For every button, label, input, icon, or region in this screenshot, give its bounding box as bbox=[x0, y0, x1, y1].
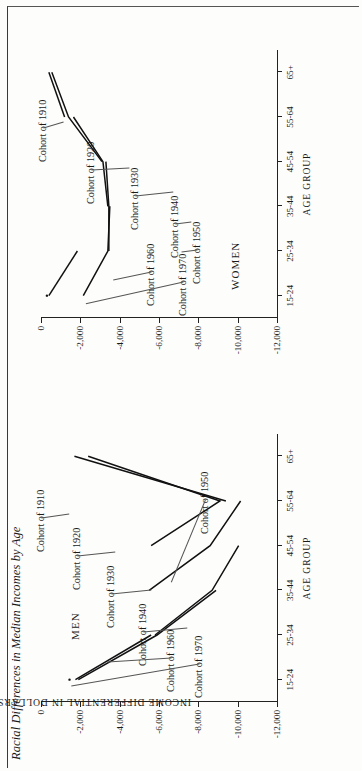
y-tick-label: -6,000 bbox=[154, 326, 164, 350]
y-tick bbox=[80, 318, 81, 323]
cohort-label: Cohort of 1940 bbox=[137, 603, 148, 665]
x-tick bbox=[277, 589, 282, 590]
y-tick-label: -10,000 bbox=[233, 710, 243, 738]
cohort-label: Cohort of 1910 bbox=[35, 489, 46, 551]
x-axis-women bbox=[277, 50, 278, 318]
y-tick bbox=[238, 702, 239, 707]
y-tick-label: -2,000 bbox=[75, 710, 85, 734]
y-tick-label: 0 bbox=[36, 710, 46, 715]
x-tick-label: 45-54 bbox=[285, 150, 295, 171]
y-tick-label: 0 bbox=[36, 326, 46, 331]
x-axis-men bbox=[277, 434, 278, 702]
y-tick bbox=[198, 318, 199, 323]
y-tick-label: -10,000 bbox=[233, 326, 243, 354]
x-tick bbox=[277, 678, 282, 679]
x-tick-label: 55-64 bbox=[285, 490, 295, 511]
cohort-label: Cohort of 1970 bbox=[177, 253, 188, 315]
cohort-label: Cohort of 1920 bbox=[71, 527, 82, 589]
y-tick bbox=[159, 318, 160, 323]
x-tick-label: 25-34 bbox=[285, 624, 295, 645]
x-axis-title-men: AGE GROUP bbox=[301, 536, 312, 599]
y-axis-title: INCOME DIFFERENTIAL IN DOLLARS bbox=[0, 697, 191, 708]
series-line bbox=[49, 72, 65, 117]
x-tick bbox=[277, 249, 282, 250]
y-tick bbox=[277, 318, 278, 323]
x-tick-label: 25-34 bbox=[285, 240, 295, 261]
y-tick-label: -8,000 bbox=[193, 326, 203, 350]
figure-page: Racial Differences in Median Incomes by … bbox=[0, 0, 362, 771]
figure-title: Racial Differences in Median Incomes by … bbox=[9, 526, 24, 759]
cohort-label: Cohort of 1930 bbox=[129, 167, 140, 229]
x-tick-label: 65+ bbox=[285, 65, 295, 79]
y-tick-label: -4,000 bbox=[115, 326, 125, 350]
y-tick bbox=[120, 318, 121, 323]
x-tick bbox=[277, 115, 282, 116]
cohort-label: Cohort of 1970 bbox=[193, 635, 204, 697]
plot-area-women: 0-2,000-4,000-6,000-8,000-10,000-12,000 … bbox=[41, 50, 277, 318]
rotated-figure-stage: Racial Differences in Median Incomes by … bbox=[7, 6, 355, 766]
y-tick bbox=[238, 318, 239, 323]
x-tick-label: 35-44 bbox=[285, 195, 295, 216]
cohort-label: Cohort of 1940 bbox=[169, 195, 180, 257]
y-tick bbox=[277, 702, 278, 707]
cohort-label: Cohort of 1920 bbox=[85, 141, 96, 203]
y-tick-label: -2,000 bbox=[75, 326, 85, 350]
figure: Racial Differences in Median Incomes by … bbox=[7, 6, 355, 766]
x-tick bbox=[277, 205, 282, 206]
series-line bbox=[155, 545, 239, 634]
cohort-label: Cohort of 1960 bbox=[165, 629, 176, 691]
y-tick-label: -4,000 bbox=[115, 710, 125, 734]
series-line bbox=[49, 251, 78, 296]
series-line bbox=[149, 501, 240, 590]
series-line bbox=[68, 678, 70, 680]
panel-men: MEN 0-2,000-4,000-6,000-8,000-10,000-12,… bbox=[33, 406, 333, 758]
x-axis-title-women: AGE GROUP bbox=[301, 152, 312, 215]
x-tick bbox=[277, 499, 282, 500]
x-tick-label: 35-44 bbox=[285, 579, 295, 600]
y-tick bbox=[41, 318, 42, 323]
series-line bbox=[46, 294, 48, 296]
cohort-label: Cohort of 1960 bbox=[145, 243, 156, 305]
cohort-label: Cohort of 1950 bbox=[191, 221, 202, 283]
y-tick bbox=[198, 702, 199, 707]
series-line bbox=[83, 206, 110, 295]
series-lines-women bbox=[41, 50, 277, 318]
y-tick-label: -8,000 bbox=[193, 710, 203, 734]
plot-area-men: 0-2,000-4,000-6,000-8,000-10,000-12,000 … bbox=[41, 434, 277, 702]
y-tick-label: -12,000 bbox=[272, 326, 282, 354]
x-tick-label: 65+ bbox=[285, 449, 295, 463]
x-tick bbox=[277, 294, 282, 295]
x-tick-label: 15-24 bbox=[285, 668, 295, 689]
x-tick bbox=[277, 544, 282, 545]
panel-women: WOMEN 0-2,000-4,000-6,000-8,000-10,000-1… bbox=[33, 22, 333, 374]
x-tick-label: 55-64 bbox=[285, 106, 295, 127]
x-tick bbox=[277, 71, 282, 72]
x-tick bbox=[277, 633, 282, 634]
cohort-label: Cohort of 1930 bbox=[105, 565, 116, 627]
y-tick-label: -12,000 bbox=[272, 710, 282, 738]
cohort-label: Cohort of 1910 bbox=[37, 99, 48, 161]
x-tick-label: 15-24 bbox=[285, 284, 295, 305]
x-tick bbox=[277, 455, 282, 456]
y-tick-label: -6,000 bbox=[154, 710, 164, 734]
x-tick bbox=[277, 160, 282, 161]
x-tick-label: 45-54 bbox=[285, 534, 295, 555]
